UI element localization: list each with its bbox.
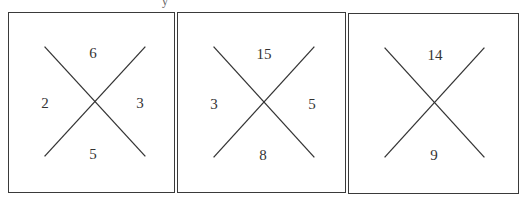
box-1-bottom-number: 5 xyxy=(89,147,97,162)
cropped-text-fragment: y xyxy=(162,0,168,9)
box-2-left-number: 3 xyxy=(210,97,218,112)
box-1-right-number: 3 xyxy=(136,96,144,111)
x-cross-icon xyxy=(9,13,174,192)
puzzle-box-3: 14 9 xyxy=(348,13,519,194)
box-2-bottom-number: 8 xyxy=(259,148,267,163)
box-2-right-number: 5 xyxy=(308,97,316,112)
box-1-top-number: 6 xyxy=(89,46,97,61)
box-3-bottom-number: 9 xyxy=(430,148,438,163)
puzzle-box-2: 15 3 5 8 xyxy=(177,12,346,193)
box-1-left-number: 2 xyxy=(41,96,49,111)
puzzle-box-1: 6 2 3 5 xyxy=(8,12,175,193)
box-2-top-number: 15 xyxy=(257,47,272,62)
x-cross-icon xyxy=(349,14,518,193)
x-cross-icon xyxy=(178,13,345,192)
box-3-top-number: 14 xyxy=(428,48,443,63)
